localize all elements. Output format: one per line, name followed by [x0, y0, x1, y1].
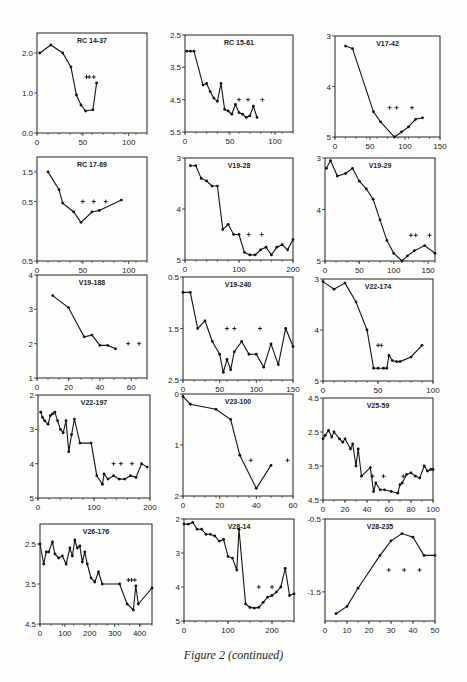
y-tick-label: 2: [30, 391, 35, 400]
plus-marker: [246, 98, 250, 102]
x-tick-label: 100: [58, 629, 72, 638]
x-tick-label: 100: [398, 142, 412, 151]
plus-marker: [388, 106, 392, 110]
data-point: [38, 52, 41, 55]
plus-marker: [137, 342, 141, 346]
plot-frame: [185, 158, 293, 260]
x-tick-label: 80: [407, 505, 416, 514]
data-point: [204, 319, 207, 322]
data-point: [45, 551, 48, 554]
x-tick-label: 100: [232, 265, 246, 274]
data-point: [271, 594, 274, 597]
data-point: [189, 164, 192, 167]
y-tick-label: 1.5: [22, 168, 34, 177]
x-tick-label: 200: [143, 503, 157, 512]
data-point: [78, 545, 81, 548]
figure-canvas: RC 14-370501000.01.02.0RC 15-610501002.5…: [0, 0, 467, 682]
x-tick-label: 0: [38, 629, 43, 638]
data-point: [412, 536, 415, 539]
data-line: [48, 172, 121, 223]
chart-title: V19-29: [369, 162, 392, 169]
plot-frame: [37, 33, 147, 133]
data-point: [212, 97, 215, 100]
data-point: [83, 335, 86, 338]
data-point: [146, 466, 149, 469]
chart-title: RC 17-69: [77, 161, 107, 168]
chart-title: V22-197: [81, 399, 108, 406]
data-point: [393, 136, 396, 139]
data-point: [234, 103, 237, 106]
data-point: [51, 294, 54, 297]
plus-marker: [410, 106, 414, 110]
data-point: [275, 246, 278, 249]
data-point: [379, 554, 382, 557]
x-tick-label: 0: [333, 142, 338, 151]
data-point: [137, 603, 140, 606]
data-point: [413, 249, 416, 252]
data-point: [67, 306, 70, 309]
data-point: [255, 353, 258, 356]
plus-marker: [92, 200, 96, 204]
x-tick-label: 100: [387, 266, 401, 275]
x-tick-label: 20: [64, 383, 73, 392]
plus-marker: [414, 233, 418, 237]
y-tick-label: 0.5: [168, 273, 180, 282]
chart-panel-v23-100: V23-1000204060012: [175, 390, 298, 510]
y-tick-label: 0.5: [22, 198, 34, 207]
x-tick-label: 0: [35, 138, 40, 147]
plus-marker: [249, 458, 253, 462]
plus-marker: [382, 474, 386, 478]
data-point: [189, 403, 192, 406]
y-tick-label: 4: [315, 326, 320, 335]
plot-frame: [40, 524, 152, 624]
x-tick-label: 50: [78, 138, 87, 147]
x-tick-label: 0: [36, 503, 41, 512]
chart-title: V22-174: [365, 283, 392, 290]
plus-marker: [126, 342, 130, 346]
data-point: [407, 126, 410, 129]
data-point: [399, 483, 402, 486]
data-point: [51, 541, 54, 544]
x-tick-label: 50: [374, 386, 383, 395]
data-point: [95, 474, 98, 477]
data-point: [151, 587, 154, 590]
data-point: [230, 113, 233, 116]
x-tick-label: 100: [426, 505, 440, 514]
data-point: [43, 419, 46, 422]
data-point: [338, 437, 341, 440]
data-point: [98, 344, 101, 347]
data-point: [90, 442, 93, 445]
data-point: [266, 596, 269, 599]
y-tick-label: 0.5: [22, 257, 34, 266]
x-tick-label: 60: [289, 501, 298, 510]
data-line: [326, 161, 435, 261]
data-point: [189, 50, 192, 53]
data-point: [183, 523, 186, 526]
chart-title: V19-28: [228, 162, 251, 169]
data-point: [284, 327, 287, 330]
data-point: [47, 170, 50, 173]
data-point: [106, 344, 109, 347]
y-tick-label: 3: [29, 305, 34, 314]
plus-marker: [119, 462, 123, 466]
y-tick-label: 3: [177, 154, 182, 163]
data-point: [79, 442, 82, 445]
data-point: [262, 601, 265, 604]
x-tick-label: 50: [215, 385, 224, 394]
data-point: [65, 419, 68, 422]
y-tick-label: 4: [177, 205, 182, 214]
y-tick-label: 2.5: [308, 428, 320, 437]
x-tick-label: 400: [133, 629, 147, 638]
plus-marker: [402, 568, 406, 572]
x-tick-label: 300: [108, 629, 122, 638]
data-point: [81, 561, 84, 564]
chart-title: V19-240: [225, 281, 252, 288]
x-tick-label: 150: [286, 385, 300, 394]
data-point: [67, 450, 70, 453]
plus-marker: [247, 233, 251, 237]
data-point: [372, 198, 375, 201]
plus-marker: [81, 200, 85, 204]
figure-caption: Figure 2 (continued): [0, 648, 467, 663]
data-point: [73, 418, 76, 421]
data-point: [189, 291, 192, 294]
